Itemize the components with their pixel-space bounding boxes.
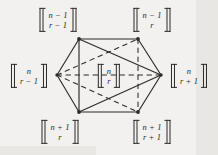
numerator: n − 1 (143, 9, 162, 20)
denominator: r (107, 76, 110, 87)
coefficient-stack: n + 1r (48, 120, 72, 144)
coefficient-stack: nr − 1 (17, 64, 40, 88)
node-top-right: n − 1r (134, 8, 171, 32)
denominator: r − 1 (49, 20, 67, 31)
coefficient-stack: nr (104, 64, 113, 88)
coefficient-stack: nr + 1 (177, 64, 200, 88)
denominator: r + 1 (180, 76, 198, 87)
numerator: n + 1 (51, 121, 70, 132)
node-center: nr (98, 64, 120, 88)
node-bottom-left: n + 1r (42, 120, 79, 144)
outer-right-bracket (44, 64, 47, 88)
node-left: nr − 1 (11, 64, 47, 88)
node-bottom-right: n + 1r + 1 (134, 120, 171, 144)
denominator: r − 1 (20, 76, 38, 87)
binomial-hexagon-figure: n − 1r − 1n − 1rnr − 1nrnr + 1n + 1rn + … (0, 0, 218, 155)
vertex-dot (136, 110, 140, 114)
denominator: r (58, 132, 61, 143)
coefficient-stack: n − 1r (140, 8, 164, 32)
outer-right-bracket (204, 64, 207, 88)
outer-right-bracket (74, 8, 77, 32)
vertex-dot (136, 37, 140, 41)
vertex-dot (159, 73, 162, 76)
coefficient-stack: n + 1r + 1 (140, 120, 164, 144)
numerator: n − 1 (49, 9, 68, 20)
outer-right-bracket (168, 120, 171, 144)
numerator: n (27, 65, 31, 76)
outer-right-bracket (76, 120, 79, 144)
denominator: r + 1 (143, 132, 161, 143)
vertex-dot (55, 73, 58, 76)
outer-right-bracket (117, 64, 120, 88)
numerator: n (107, 65, 111, 76)
node-right: nr + 1 (171, 64, 207, 88)
numerator: n + 1 (143, 121, 162, 132)
outer-right-bracket (168, 8, 171, 32)
denominator: r (150, 20, 153, 31)
coefficient-stack: n − 1r − 1 (46, 8, 70, 32)
node-top-left: n − 1r − 1 (40, 8, 77, 32)
vertex-dot (77, 37, 81, 41)
vertex-dot (77, 110, 81, 114)
numerator: n (187, 65, 191, 76)
